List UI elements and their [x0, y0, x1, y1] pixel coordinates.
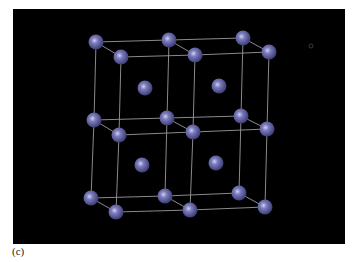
lattice-edge: [91, 120, 94, 198]
lattice-edge: [267, 52, 269, 129]
body-center-atom: [212, 79, 227, 94]
lattice-edge: [195, 52, 269, 55]
corner-atom: [162, 33, 177, 48]
lattice-edge: [167, 40, 169, 118]
lattice-edge: [239, 116, 241, 193]
corner-atom: [258, 200, 273, 215]
lattice-edge: [96, 40, 169, 42]
corner-atom: [89, 35, 104, 50]
lattice-edge: [193, 55, 195, 132]
lattice-edge: [241, 38, 243, 116]
body-center-atom: [135, 158, 150, 173]
corner-atom: [87, 113, 102, 128]
corner-atom: [160, 111, 175, 126]
crystal-structure-figure: [13, 9, 345, 244]
corner-atom: [260, 122, 275, 137]
lattice-edge: [91, 196, 165, 198]
lattice-edge: [119, 132, 193, 135]
lattice-edge: [165, 118, 167, 196]
bcc-lattice-diagram: [0, 0, 355, 262]
lattice-edge: [167, 116, 241, 118]
corner-atom: [232, 186, 247, 201]
lattice-edge: [190, 207, 265, 210]
corner-atom: [262, 45, 277, 60]
lattice-edge: [94, 42, 96, 120]
lattice-edge: [116, 210, 190, 212]
lattice-edge: [119, 57, 121, 135]
corner-atom: [188, 48, 203, 63]
lattice-edge: [94, 118, 167, 120]
body-center-atom: [138, 81, 153, 96]
corner-atom: [186, 125, 201, 140]
corner-atom: [84, 191, 99, 206]
corner-atom: [183, 203, 198, 218]
lattice-edge: [116, 135, 119, 212]
corner-atom: [236, 31, 251, 46]
corner-atom: [234, 109, 249, 124]
marker-ring-icon: [309, 44, 313, 48]
lattice-edge: [190, 132, 193, 210]
lattice-edge: [121, 55, 195, 57]
corner-atom: [112, 128, 127, 143]
corner-atom: [158, 189, 173, 204]
body-center-atom: [209, 156, 224, 171]
lattice-edge: [265, 129, 267, 207]
figure-caption-label: (c): [12, 245, 24, 257]
lattice-edges: [91, 38, 269, 212]
lattice-edge: [169, 38, 243, 40]
corner-atom: [114, 50, 129, 65]
lattice-edge: [193, 129, 267, 132]
lattice-edge: [165, 193, 239, 196]
small-ring-marker: [309, 44, 313, 48]
corner-atom: [109, 205, 124, 220]
